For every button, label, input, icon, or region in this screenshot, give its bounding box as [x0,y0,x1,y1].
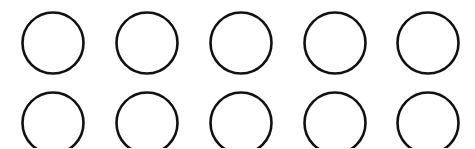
circle-r1-c2 [117,13,178,74]
circle-r1-c4 [305,13,366,74]
circle-r2-c1 [23,93,84,149]
circle-r2-c3 [211,93,272,149]
circle-r1-c3 [211,13,272,74]
circle-r1-c5 [398,13,459,74]
circle-r1-c1 [23,13,84,74]
circle-grid [0,0,475,148]
circle-r2-c4 [305,93,366,149]
circle-r2-c2 [117,93,178,149]
circle-r2-c5 [398,93,459,149]
